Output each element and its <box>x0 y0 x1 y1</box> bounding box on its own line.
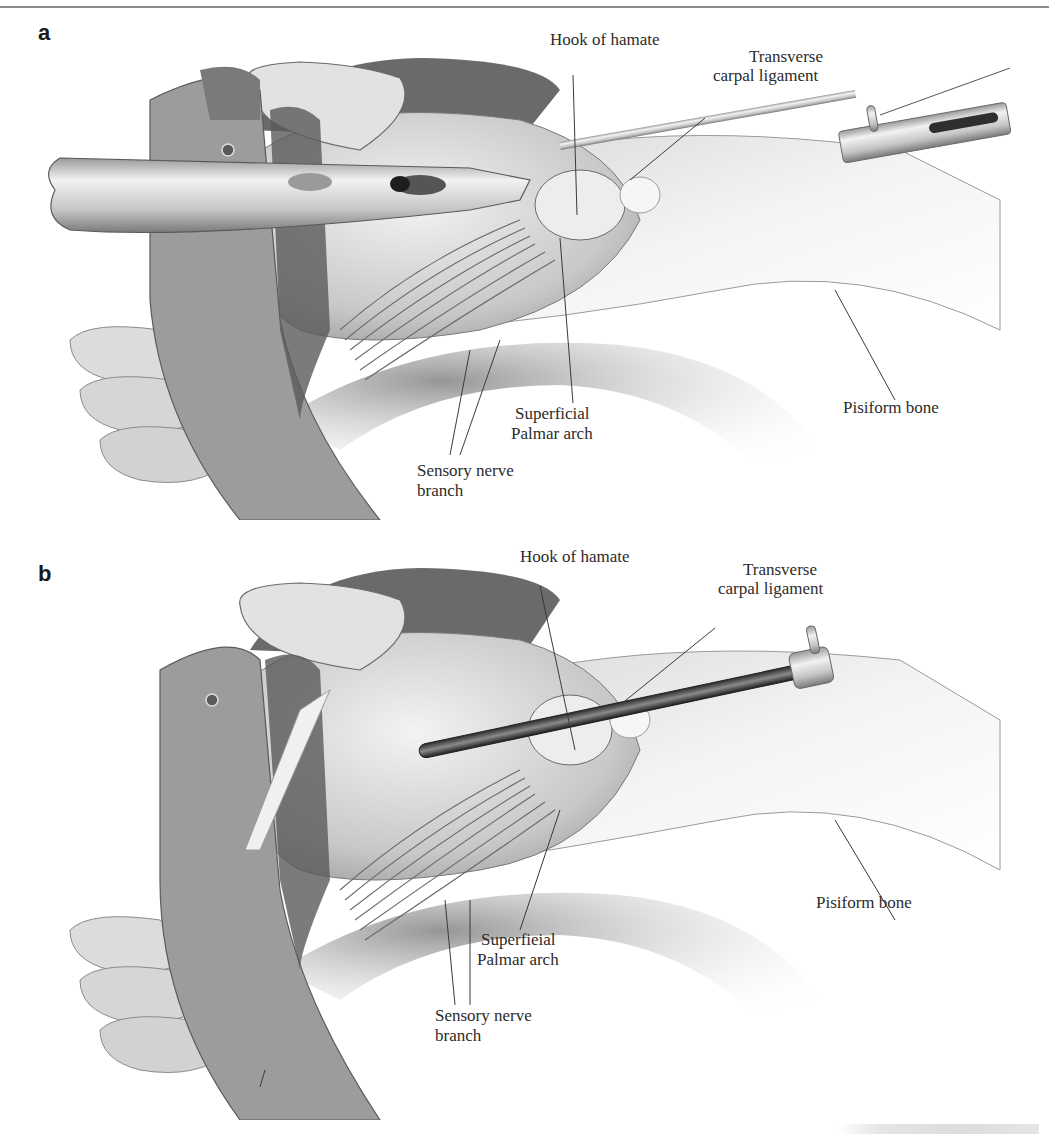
label-hook-of-hamate: Hook of hamate <box>550 30 660 50</box>
label-pisiform-bone: Pisiform bone <box>816 893 912 913</box>
label-palmar-arch: Palmar arch <box>477 950 559 970</box>
panel-letter-b: b <box>38 561 51 587</box>
figure-panel-a: a Hook of hamate Transverse carpal ligam… <box>0 0 1049 520</box>
label-transverse-line2: carpal ligament <box>713 66 818 86</box>
label-superficial: Superficial <box>515 404 590 424</box>
label-superficial: Superfieial <box>481 930 556 950</box>
surgical-illustration-b <box>0 550 1049 1120</box>
label-sensory-nerve: Sensory nerve <box>417 461 514 481</box>
figure-panel-b: b Hook of hamate Transverse carpal ligam… <box>0 550 1049 1120</box>
label-branch: branch <box>435 1026 481 1046</box>
label-transverse-line2: carpal ligament <box>718 579 823 599</box>
label-pisiform-bone: Pisiform bone <box>843 398 939 418</box>
label-sensory-nerve: Sensory nerve <box>435 1006 532 1026</box>
label-branch: branch <box>417 481 463 501</box>
cropped-caption-fragment <box>0 1122 1049 1134</box>
label-palmar-arch: Palmar arch <box>511 424 593 444</box>
panel-letter-a: a <box>38 20 50 46</box>
label-transverse-line1: Transverse <box>700 560 860 580</box>
label-hook-of-hamate: Hook of hamate <box>520 547 630 567</box>
label-transverse-line1: Transverse <box>706 47 866 67</box>
